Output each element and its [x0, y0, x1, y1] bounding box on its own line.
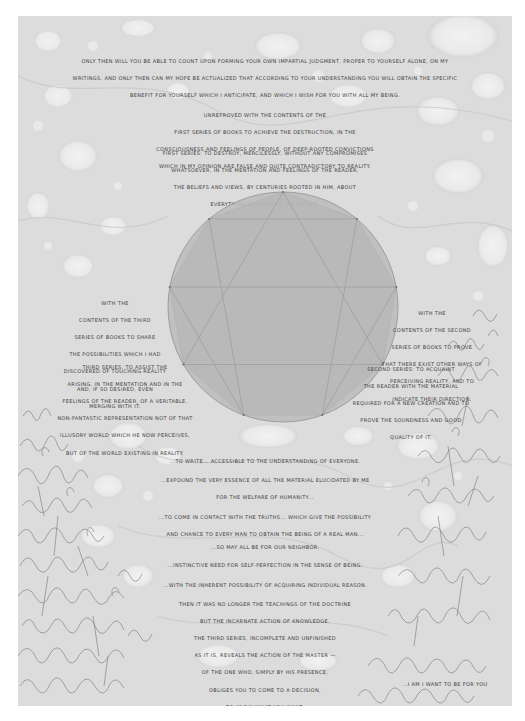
closing-line: but the incarnate action of knowledge.: [150, 617, 380, 626]
second-series-text: Second series: to acquaint the reader wi…: [336, 356, 486, 451]
closing-line: Then it was no longer the teachings of t…: [150, 600, 380, 609]
third-series-line: feelings of the reader, of a veritable,: [36, 397, 214, 406]
right-intro-line: contents of the second: [362, 326, 502, 335]
first-series-line: First series: to destroy, mercilessly, w…: [140, 149, 390, 158]
upper-intro-line: Unreproved with the contents of the: [140, 111, 390, 120]
second-series-line: required for a new creation and to: [336, 399, 486, 408]
top-paragraph-line: benefit for yourself which I anticipate,…: [38, 91, 492, 100]
third-series-line: arising, in the mentation and in the: [36, 380, 214, 389]
closing-paragraph: Then it was no longer the teachings of t…: [150, 591, 380, 706]
closing-line: as it is, reveals the action of the Mast…: [150, 651, 380, 660]
second-series-line: quality of it.: [336, 433, 486, 442]
left-intro-line: series of books to share: [40, 333, 190, 342]
right-intro-line: series of books to prove: [362, 343, 502, 352]
left-intro-line: With the: [40, 299, 190, 308]
closing-line: obliges you to come to a decision,: [150, 686, 380, 695]
signature-text: ...I am I want to be for you: [402, 680, 512, 689]
closing-line: The Third Series, incomplete and unfinis…: [150, 634, 380, 643]
statement-line: for the welfare of humanity...: [110, 493, 420, 502]
second-series-line: prove the soundness and good: [336, 416, 486, 425]
third-series-line: Third series: to assist the: [36, 363, 214, 372]
third-series-line: non-fantastic representation not of that: [36, 414, 214, 423]
statement-line: ...to write... accessible to the underst…: [110, 457, 420, 466]
closing-line: of the one who, simply by his presence,: [150, 668, 380, 677]
second-series-line: Second series: to acquaint: [336, 365, 486, 374]
statement-line: ...instinctive need for self-perfection …: [110, 561, 420, 570]
left-intro-line: contents of the third: [40, 316, 190, 325]
second-series-line: the reader with the material: [336, 382, 486, 391]
upper-intro-line: first series of books to achieve the des…: [140, 128, 390, 137]
statement-line: ...with the inherent possibility of acqu…: [110, 581, 420, 590]
first-series-line: whatsoever, in the mentation and feeling…: [140, 166, 390, 175]
statement-line: ...expound the very essence of all the m…: [110, 476, 420, 485]
top-paragraph-line: writings. And only then can my hope be a…: [38, 74, 492, 83]
top-paragraph: Only then will you be able to count upon…: [38, 48, 492, 108]
right-intro-line: With the: [362, 309, 502, 318]
third-series-line: illusory world which he now perceives,: [36, 431, 214, 440]
closing-line: to know what you want.: [150, 703, 380, 706]
top-paragraph-line: Only then will you be able to count upon…: [38, 57, 492, 66]
statement-line: ...to come in contact with the truths...…: [110, 513, 420, 522]
marbled-page-panel: Only then will you be able to count upon…: [18, 16, 512, 706]
statement-line: ...so may all be for our neighbor.: [110, 543, 420, 552]
